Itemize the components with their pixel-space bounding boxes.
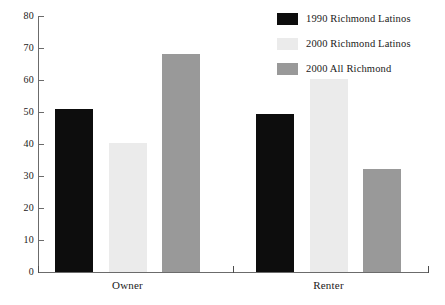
y-axis-tick-mark <box>38 144 44 145</box>
y-axis-tick-label-text: 50 <box>2 107 34 117</box>
y-axis-tick-label: 20 <box>0 203 34 213</box>
y-axis-tick-label: 60 <box>0 75 34 85</box>
x-axis-group-label: Renter <box>279 279 379 292</box>
bar <box>162 54 200 272</box>
legend-item-label: 1990 Richmond Latinos <box>306 12 411 26</box>
legend-swatch-icon <box>277 38 298 50</box>
x-axis-tick-mark <box>233 266 234 273</box>
y-axis-tick-label-text: 60 <box>2 75 34 85</box>
y-axis-tick-label-text: 70 <box>2 43 34 53</box>
y-axis-tick-label-text: 80 <box>2 11 34 21</box>
y-axis-tick-mark <box>38 208 44 209</box>
legend-swatch-icon <box>277 13 298 25</box>
bar-chart: 80706050403020100 OwnerRenter 1990 Richm… <box>0 0 445 305</box>
bar <box>310 79 348 272</box>
x-axis-group-label: Owner <box>78 279 178 292</box>
y-axis-tick-label-text: 30 <box>2 171 34 181</box>
y-axis-tick-label-text: 20 <box>2 203 34 213</box>
x-axis-tick-mark <box>428 266 429 273</box>
y-axis-tick-label: 40 <box>0 139 34 149</box>
y-axis-tick-label-text: 0 <box>2 267 34 277</box>
x-axis-tick-mark <box>38 266 39 273</box>
y-axis-tick-label: 10 <box>0 235 34 245</box>
y-axis-tick-label-text: 40 <box>2 139 34 149</box>
bar <box>363 169 401 272</box>
y-axis-tick-label: 70 <box>0 43 34 53</box>
y-axis-tick-mark <box>38 112 44 113</box>
y-axis-tick-label: 80 <box>0 11 34 21</box>
bar <box>109 143 147 272</box>
bar <box>256 114 294 272</box>
y-axis-tick-mark <box>38 16 44 17</box>
legend-swatch-icon <box>277 63 298 75</box>
y-axis-tick-mark <box>38 176 44 177</box>
bar <box>55 109 93 272</box>
legend-item-label: 2000 Richmond Latinos <box>306 37 411 51</box>
y-axis-tick-mark <box>38 240 44 241</box>
y-axis-tick-mark <box>38 48 44 49</box>
y-axis-tick-label: 30 <box>0 171 34 181</box>
y-axis-tick-label-text: 10 <box>2 235 34 245</box>
y-axis-tick-mark <box>38 80 44 81</box>
y-axis-tick-label: 50 <box>0 107 34 117</box>
legend-item-label: 2000 All Richmond <box>306 62 391 76</box>
y-axis-tick-label: 0 <box>0 267 34 277</box>
